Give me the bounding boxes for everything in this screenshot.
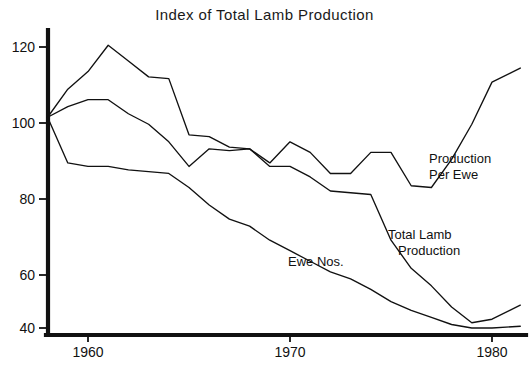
series-annotation-ewe-nos: Ewe Nos.: [288, 254, 344, 269]
series-annotation-total-lamb-production-line2: Production: [398, 243, 460, 258]
chart-figure: Index of Total Lamb Production 120 100 8…: [0, 0, 529, 369]
x-tick-label-1980: 1980: [476, 344, 507, 360]
series-annotation-production-per-ewe-line1: Production: [429, 151, 491, 166]
y-tick-label-40: 40: [19, 320, 35, 336]
series-line-total-lamb-production: [48, 100, 521, 323]
series-annotation-total-lamb-production-line1: Total Lamb: [388, 227, 452, 242]
plot-area: 120 100 80 60 40 1960 1970 1980 Producti…: [0, 0, 529, 369]
y-tick-label-80: 80: [19, 191, 35, 207]
y-tick-label-60: 60: [19, 267, 35, 283]
x-tick-label-1970: 1970: [274, 344, 305, 360]
series-annotation-production-per-ewe-line2: Per Ewe: [429, 167, 478, 182]
y-tick-label-100: 100: [12, 115, 36, 131]
x-tick-label-1960: 1960: [72, 344, 103, 360]
y-tick-label-120: 120: [12, 39, 36, 55]
